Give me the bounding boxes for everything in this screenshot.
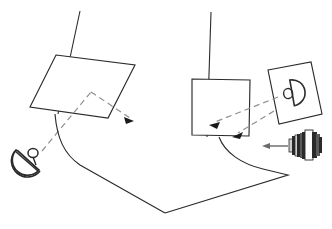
right-panel[interactable] (192, 79, 250, 136)
left-cable (55, 114, 165, 213)
left-panel[interactable] (30, 55, 135, 118)
arrowhead-reflected-left (124, 117, 134, 124)
arrowhead-camera (262, 143, 270, 149)
diagram-svg (0, 0, 332, 229)
camera-lens-icon[interactable] (289, 130, 322, 160)
satellite-dish-icon[interactable] (11, 149, 40, 178)
dish-photo-card[interactable] (268, 62, 322, 124)
diagram-canvas (0, 0, 332, 229)
